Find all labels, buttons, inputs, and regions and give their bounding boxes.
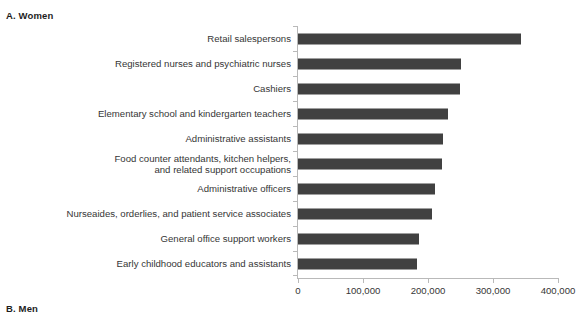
bar (298, 183, 435, 194)
category-tick (293, 51, 298, 52)
category-label: Administrative officers (0, 183, 291, 195)
x-axis-tick-label: 400,000 (541, 285, 576, 296)
bar (298, 33, 521, 44)
chart-row: Administrative officers (298, 176, 558, 201)
category-tick (293, 201, 298, 202)
category-label: Food counter attendants, kitchen helpers… (0, 152, 291, 175)
category-label: Retail salespersons (0, 33, 291, 45)
category-tick (293, 126, 298, 127)
category-label: General office support workers (0, 233, 291, 245)
category-label: Elementary school and kindergarten teach… (0, 108, 291, 120)
chart-row: Nurseaides, orderlies, and patient servi… (298, 201, 558, 226)
category-tick (293, 101, 298, 102)
chart-row: General office support workers (298, 226, 558, 251)
chart-row: Administrative assistants (298, 126, 558, 151)
category-tick (293, 251, 298, 252)
category-label: Cashiers (0, 83, 291, 95)
bar (298, 58, 461, 69)
x-axis-tick (363, 278, 364, 283)
x-axis-tick (428, 278, 429, 283)
panel-a-title: A. Women (6, 10, 53, 21)
category-tick (293, 76, 298, 77)
bar (298, 233, 419, 244)
chart-row: Elementary school and kindergarten teach… (298, 101, 558, 126)
x-axis-tick-label: 0 (295, 285, 300, 296)
chart-women: Retail salespersonsRegistered nurses and… (0, 26, 578, 294)
category-tick (293, 226, 298, 227)
x-axis-tick-label: 300,000 (476, 285, 511, 296)
category-label: Early childhood educators and assistants (0, 258, 291, 270)
panel-b-title: B. Men (6, 303, 38, 314)
bar (298, 108, 448, 119)
bar (298, 133, 443, 144)
category-tick (293, 176, 298, 177)
category-tick (293, 275, 298, 276)
x-axis-tick (298, 278, 299, 283)
category-tick (293, 151, 298, 152)
category-label: Registered nurses and psychiatric nurses (0, 58, 291, 70)
plot-area: Retail salespersonsRegistered nurses and… (298, 26, 558, 276)
category-label: Nurseaides, orderlies, and patient servi… (0, 208, 291, 220)
x-axis-tick (493, 278, 494, 283)
bar (298, 83, 460, 94)
chart-row: Cashiers (298, 76, 558, 101)
category-label: Administrative assistants (0, 133, 291, 145)
chart-row: Food counter attendants, kitchen helpers… (298, 151, 558, 176)
chart-row: Retail salespersons (298, 26, 558, 51)
bar (298, 208, 432, 219)
bar (298, 158, 442, 169)
category-tick (293, 26, 298, 27)
chart-row: Early childhood educators and assistants (298, 251, 558, 276)
x-axis-tick-label: 200,000 (411, 285, 446, 296)
x-axis-tick-label: 100,000 (346, 285, 381, 296)
x-axis-tick (558, 278, 559, 283)
chart-row: Registered nurses and psychiatric nurses (298, 51, 558, 76)
bar (298, 258, 417, 269)
